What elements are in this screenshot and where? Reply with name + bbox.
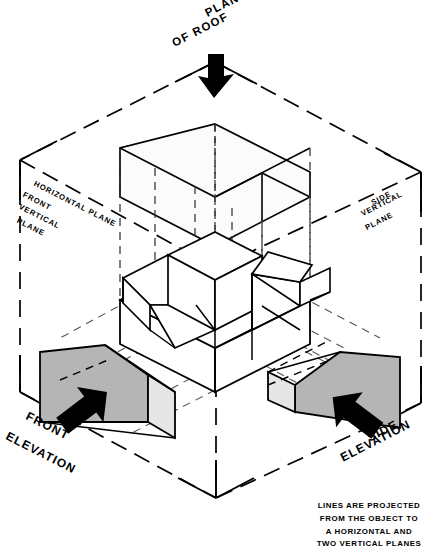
corner-accent-right-upper bbox=[384, 153, 421, 172]
corner-accent-bottom-left bbox=[178, 478, 216, 498]
central-object bbox=[120, 232, 330, 392]
front-elevation-light-face bbox=[148, 375, 175, 438]
isometric-projection-drawing bbox=[0, 0, 443, 558]
figure-caption: LINES ARE PROJECTED FROM THE OBJECT TO A… bbox=[300, 500, 438, 551]
arrow-down-icon bbox=[198, 54, 234, 98]
corner-accent-bottom-right bbox=[216, 478, 254, 498]
side-elevation-light-face bbox=[268, 372, 295, 412]
corner-accent-left-upper bbox=[20, 141, 57, 160]
figure-canvas: PLAN VIEW OF ROOF HORIZONTAL PLANE FRONT… bbox=[0, 0, 443, 558]
